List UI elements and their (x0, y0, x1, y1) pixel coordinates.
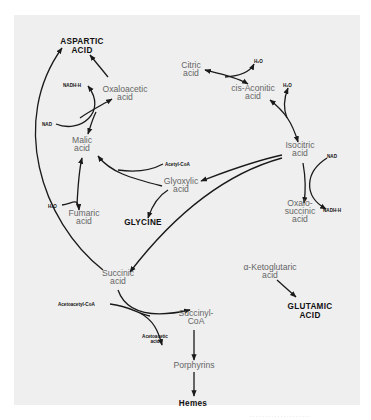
svg-text:acid: acid (150, 339, 159, 344)
svg-text:acid: acid (173, 184, 189, 194)
svg-text:acid: acid (262, 270, 278, 280)
caption-text: · · · · · · · · · · · · · · · · · · · · (250, 413, 310, 419)
cofactor-h2o-fumaric: H₂O (48, 204, 57, 209)
svg-text:acid: acid (183, 68, 199, 78)
svg-text:acid: acid (74, 143, 90, 153)
svg-text:acid: acid (110, 276, 126, 286)
cofactor-nadh-top: NADH·H (63, 83, 82, 88)
svg-text:acid: acid (292, 214, 308, 224)
svg-text:acid: acid (76, 216, 92, 226)
svg-text:CoA: CoA (188, 316, 205, 326)
svg-text:Hemes: Hemes (179, 399, 207, 408)
svg-text:GLUTAMIC: GLUTAMIC (288, 302, 333, 311)
node-hemes: Hemes (179, 399, 207, 408)
svg-text:ACID: ACID (71, 46, 92, 55)
node-porphyrins: Porphyrins (173, 360, 214, 370)
svg-text:GLYCINE: GLYCINE (124, 218, 162, 227)
node-glycine: GLYCINE (124, 218, 162, 227)
cofactor-h2o-citric: H₂O (254, 59, 263, 64)
svg-text:acid: acid (117, 92, 133, 102)
cofactor-nad-left: NAD (42, 122, 53, 127)
cofactor-h2o-aconitic: H₂O (283, 83, 292, 88)
metabolic-pathway-diagram: ASPARTIC ACID Oxaloacetic acid Citric ac… (0, 0, 371, 420)
svg-text:ASPARTIC: ASPARTIC (60, 37, 104, 46)
cofactor-acetyl-coa: Acetyl-CoA (165, 162, 190, 167)
node-citric-acid: Citric acid (181, 60, 201, 78)
svg-text:acid: acid (245, 91, 261, 101)
cofactor-acetoacetyl-coa: Acetoacetyl-CoA (58, 302, 95, 307)
cofactor-nad-right: NAD (327, 154, 338, 159)
cofactor-nadh-right: NADH·H (323, 208, 342, 213)
svg-text:acid: acid (292, 148, 308, 158)
node-malic-acid: Malic acid (72, 135, 93, 153)
svg-text:ACID: ACID (299, 311, 320, 320)
svg-text:Porphyrins: Porphyrins (173, 360, 214, 370)
